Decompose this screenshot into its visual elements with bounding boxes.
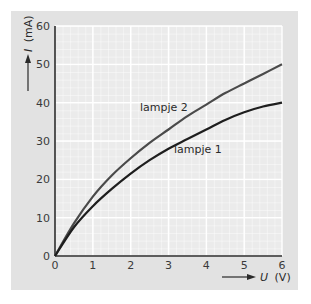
arrow-right-icon <box>247 274 256 280</box>
y-tick-label: 40 <box>36 97 50 110</box>
y-tick-label: 10 <box>36 212 50 225</box>
x-tick-labels: 0123456 <box>52 259 286 272</box>
y-tick-label: 50 <box>36 58 50 71</box>
y-tick-label: 0 <box>43 250 50 263</box>
y-tick-label: 30 <box>36 135 50 148</box>
x-tick-label: 1 <box>89 259 96 272</box>
y-tick-labels: 0102030405060 <box>36 20 50 263</box>
y-axis-label: I (mA) <box>22 15 35 91</box>
y-tick-label: 60 <box>36 20 50 33</box>
series-label-lampje-1: lampje 1 <box>174 143 222 156</box>
x-tick-label: 4 <box>203 259 210 272</box>
x-tick-label: 0 <box>52 259 59 272</box>
x-tick-label: 5 <box>241 259 248 272</box>
y-tick-label: 20 <box>36 173 50 186</box>
svg-text:I (mA): I (mA) <box>22 15 35 52</box>
iv-chart: 0123456 0102030405060 lampje 2 lampje 1 … <box>0 0 311 304</box>
x-tick-label: 2 <box>127 259 134 272</box>
arrow-up-icon <box>25 54 31 63</box>
svg-text:U (V): U (V) <box>260 271 291 284</box>
x-axis-label: U (V) <box>222 271 291 284</box>
x-tick-label: 3 <box>165 259 172 272</box>
series-label-lampje-2: lampje 2 <box>140 101 188 114</box>
